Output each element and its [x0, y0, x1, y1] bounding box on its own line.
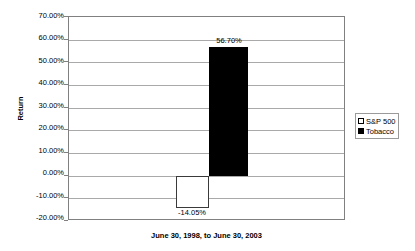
chart-legend: S&P 500 Tobacco: [355, 113, 399, 139]
y-tick-label: 30.00%: [24, 102, 64, 110]
legend-item-sp500: S&P 500: [358, 116, 395, 126]
bar-sp500: [176, 176, 209, 208]
bars-layer: [69, 17, 344, 219]
legend-swatch-hollow-square-icon: [358, 118, 364, 124]
y-tick-label: -20.00%: [24, 214, 64, 222]
data-label-sp500: -14.05%: [161, 208, 223, 217]
y-tick-label: 50.00%: [24, 57, 64, 65]
y-tick-label: 0.00%: [24, 169, 64, 177]
y-tick-label: 10.00%: [24, 147, 64, 155]
legend-swatch-solid-square-icon: [358, 128, 364, 134]
legend-label-tobacco: Tobacco: [366, 127, 394, 136]
y-tick-label: 20.00%: [24, 124, 64, 132]
bar-tobacco: [209, 47, 248, 176]
plot-area: 56.70% -14.05%: [68, 16, 345, 220]
y-tick-label: 70.00%: [24, 12, 64, 20]
y-tick-label: -10.00%: [24, 192, 64, 200]
x-axis-title: June 30, 1998, to June 30, 2003: [68, 231, 345, 240]
y-tick-label: 40.00%: [24, 79, 64, 87]
y-tick-label: 60.00%: [24, 34, 64, 42]
data-label-tobacco: 56.70%: [198, 36, 260, 45]
y-axis-ticks: 70.00% 60.00% 50.00% 40.00% 30.00% 20.00…: [22, 0, 64, 251]
legend-label-sp500: S&P 500: [366, 117, 395, 126]
y-tick-mark: [64, 220, 68, 221]
legend-item-tobacco: Tobacco: [358, 126, 395, 136]
bar-chart: Return 70.00% 60.00% 50.00% 40.00% 30.00…: [0, 0, 415, 251]
